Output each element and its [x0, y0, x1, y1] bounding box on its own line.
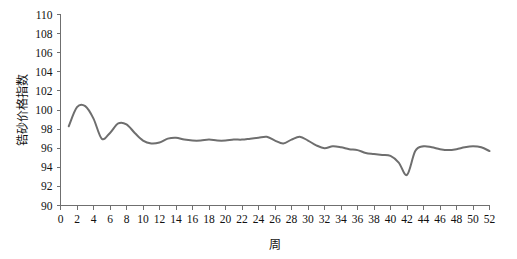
x-tick-label: 10: [137, 213, 149, 225]
x-tick-label: 0: [58, 213, 64, 225]
x-tick-label: 12: [154, 213, 166, 225]
x-tick-label: 14: [170, 213, 182, 225]
y-tick-label: 106: [35, 47, 53, 59]
line-chart: 0246810121416182022242628303234363840424…: [0, 0, 517, 259]
x-tick-label: 20: [220, 213, 232, 225]
x-tick-label: 30: [302, 213, 314, 225]
y-tick-label: 110: [36, 9, 53, 21]
y-axis-ticks: [57, 15, 61, 206]
y-tick-label: 104: [35, 66, 53, 78]
x-tick-label: 32: [319, 213, 331, 225]
x-tick-label: 18: [203, 213, 215, 225]
y-axis-title: 锆砂价格指数: [15, 74, 30, 146]
x-tick-label: 48: [451, 213, 463, 225]
x-tick-label: 6: [107, 213, 113, 225]
x-tick-label: 8: [124, 213, 130, 225]
y-tick-label: 100: [35, 104, 53, 116]
x-tick-label: 40: [385, 213, 397, 225]
y-axis-tick-labels: 9092949698100102104106108110: [35, 9, 53, 212]
x-tick-label: 24: [253, 213, 265, 225]
x-tick-label: 52: [484, 213, 496, 225]
chart-axes: 0246810121416182022242628303234363840424…: [35, 9, 495, 225]
y-tick-label: 108: [35, 28, 53, 40]
x-axis-title: 周: [269, 238, 281, 252]
y-tick-label: 94: [41, 161, 53, 173]
axis-frame: [61, 15, 490, 206]
x-axis-tick-labels: 0246810121416182022242628303234363840424…: [58, 213, 496, 225]
chart-series: [69, 105, 490, 175]
x-tick-label: 44: [418, 213, 430, 225]
y-tick-label: 96: [41, 142, 53, 154]
x-tick-label: 42: [401, 213, 413, 225]
price-index-line: [69, 105, 490, 175]
y-tick-label: 98: [41, 123, 53, 135]
x-tick-label: 22: [236, 213, 248, 225]
x-tick-label: 26: [269, 213, 281, 225]
y-tick-label: 102: [35, 85, 53, 97]
x-tick-label: 36: [352, 213, 364, 225]
y-tick-label: 92: [41, 180, 53, 192]
y-tick-label: 90: [41, 200, 53, 212]
x-tick-label: 34: [335, 213, 347, 225]
x-tick-label: 2: [74, 213, 80, 225]
x-tick-label: 28: [286, 213, 298, 225]
x-tick-label: 4: [91, 213, 97, 225]
x-tick-label: 50: [467, 213, 479, 225]
x-tick-label: 38: [368, 213, 380, 225]
x-tick-label: 16: [187, 213, 199, 225]
x-axis-ticks: [61, 206, 490, 210]
chart-figure: 0246810121416182022242628303234363840424…: [0, 0, 517, 259]
x-tick-label: 46: [434, 213, 446, 225]
